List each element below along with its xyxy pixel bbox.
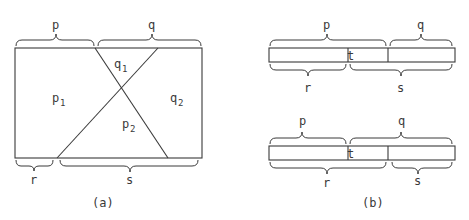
figure-b-bottom-label-t: t (347, 147, 354, 161)
figure-b-caption: (b) (362, 196, 384, 210)
figure-a-brace-p (16, 34, 94, 46)
figure-b-bottom-label-r: r (323, 176, 330, 190)
figure-a-brace-s (60, 160, 198, 172)
figure-a-diagonal-2 (57, 48, 158, 158)
figure-b-bottom-label-q: q (398, 114, 405, 128)
figure-a-label-r: r (30, 173, 37, 187)
figure-a-label-s: s (126, 173, 133, 187)
figure-a-region-q2: q 2 (170, 91, 183, 108)
diagram-canvas: p q r s p 1 q 1 p 2 q 2 (a) t p q (0, 0, 469, 220)
figure-b-bottom-label-s: s (414, 174, 421, 188)
figure-b-top-brace-q (390, 34, 452, 46)
figure-a-region-q1: q 1 (114, 57, 127, 74)
figure-b-top-label-s: s (397, 81, 404, 95)
figure-b-bottom-label-p: p (299, 114, 306, 128)
figure-a-label-p: p (52, 18, 59, 32)
figure-b-bottom-brace-r (270, 162, 386, 174)
figure-a-label-q: q (148, 18, 155, 32)
figure-a: p q r s p 1 q 1 p 2 q 2 (a) (15, 18, 202, 210)
figure-a-region-p2: p 2 (122, 117, 135, 134)
figure-a-brace-r (16, 160, 53, 171)
svg-text:p: p (122, 117, 129, 131)
figure-b-top-bar (269, 48, 455, 62)
figure-a-diagonal-1 (95, 48, 168, 158)
figure-a-brace-q (98, 34, 201, 46)
svg-text:1: 1 (60, 98, 65, 108)
figure-b-top-label-p: p (323, 18, 330, 32)
svg-text:q: q (170, 91, 177, 105)
figure-b-bottom-brace-p (270, 132, 346, 144)
figure-b-bottom-brace-s (392, 162, 452, 174)
svg-text:2: 2 (178, 98, 183, 108)
figure-a-caption: (a) (92, 196, 114, 210)
svg-text:2: 2 (130, 124, 135, 134)
figure-b-top-brace-r (270, 64, 346, 76)
figure-b-top-brace-p (270, 34, 386, 46)
figure-b-top-label-t: t (347, 49, 354, 63)
figure-b-top: t p q r s (269, 18, 455, 95)
svg-text:p: p (52, 91, 59, 105)
figure-a-region-p1: p 1 (52, 91, 65, 108)
svg-text:1: 1 (122, 64, 127, 74)
figure-b-bottom-bar (269, 146, 455, 160)
svg-text:q: q (114, 57, 121, 71)
figure-b-bottom-brace-q (350, 132, 452, 144)
figure-b-top-label-r: r (304, 81, 311, 95)
figure-b-bottom: t p q r s (269, 114, 455, 190)
figure-b-top-label-q: q (417, 18, 424, 32)
figure-b-top-brace-s (350, 64, 452, 76)
